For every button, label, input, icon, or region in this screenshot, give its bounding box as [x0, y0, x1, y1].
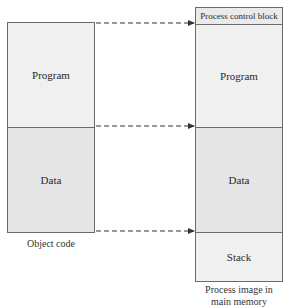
- mapping-arrows: [0, 0, 288, 306]
